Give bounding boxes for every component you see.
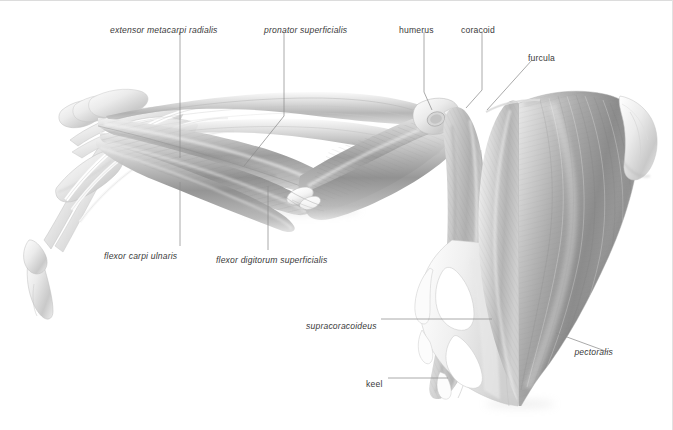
label-flexor-carpi-ulnaris: flexor carpi ulnaris <box>104 252 177 261</box>
label-flexor-digitorum-superficialis: flexor digitorum superficialis <box>216 256 327 265</box>
anatomy-figure: extensor metacarpi radialispronator supe… <box>0 0 673 430</box>
label-keel: keel <box>366 380 383 389</box>
label-humerus: humerus <box>399 26 434 35</box>
label-furcula: furcula <box>528 54 555 63</box>
illustration-page: extensor metacarpi radialispronator supe… <box>0 0 673 430</box>
label-supracoracoideus: supracoracoideus <box>306 322 377 331</box>
label-coracoid: coracoid <box>461 26 495 35</box>
anatomy-artwork <box>0 0 673 430</box>
label-pronator-superficialis: pronator superficialis <box>264 26 347 35</box>
label-extensor-metacarpi-radialis: extensor metacarpi radialis <box>110 26 218 35</box>
label-pectoralis: pectoralis <box>574 348 613 357</box>
figure-border-top <box>0 0 673 1</box>
